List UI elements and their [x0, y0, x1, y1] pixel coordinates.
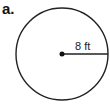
- circle-diagram: [0, 0, 110, 110]
- center-point: [60, 52, 65, 57]
- radius-label: 8 ft: [75, 40, 90, 52]
